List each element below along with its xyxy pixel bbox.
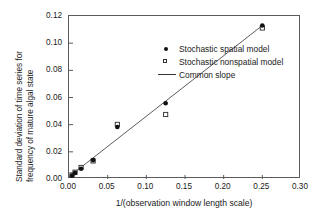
x-tick-label: 0.00 bbox=[48, 182, 88, 191]
y-tick-label: 0.04 bbox=[30, 119, 62, 128]
legend-label-nonspatial: Stochastic nonspatial model bbox=[179, 57, 283, 67]
plot-canvas bbox=[69, 16, 301, 179]
legend-item-spatial: Stochastic spatial model bbox=[157, 42, 319, 55]
chart-legend: Stochastic spatial model Stochastic nons… bbox=[157, 42, 319, 81]
open-square-marker-icon bbox=[157, 55, 179, 68]
legend-item-nonspatial: Stochastic nonspatial model bbox=[157, 55, 319, 68]
x-tick-label: 0.15 bbox=[164, 182, 204, 191]
legend-item-common-slope: Common slope bbox=[157, 68, 319, 81]
y-tick-label: 0.06 bbox=[30, 92, 62, 101]
x-axis-title: 1/(observation window length scale) bbox=[68, 198, 300, 208]
legend-label-spatial: Stochastic spatial model bbox=[179, 44, 269, 54]
filled-circle-marker-icon bbox=[157, 42, 179, 55]
y-tick-label: 0.02 bbox=[30, 146, 62, 155]
y-tick-label: 0.12 bbox=[30, 11, 62, 20]
x-tick-label: 0.05 bbox=[87, 182, 127, 191]
y-tick-label: 0.08 bbox=[30, 65, 62, 74]
y-axis-title-line-1: Standard deviation of time series for bbox=[14, 51, 24, 182]
y-tick-label: 0.10 bbox=[30, 38, 62, 47]
x-tick-label: 0.25 bbox=[241, 182, 281, 191]
y-axis-title: Standard deviation of time series for fr… bbox=[0, 0, 34, 190]
x-tick-label: 0.10 bbox=[125, 182, 165, 191]
line-sample-icon bbox=[157, 68, 179, 81]
x-tick-label: 0.30 bbox=[280, 182, 319, 191]
chart-figure: Standard deviation of time series for fr… bbox=[0, 0, 319, 222]
x-tick-label: 0.20 bbox=[203, 182, 243, 191]
plot-area: Stochastic spatial model Stochastic nons… bbox=[68, 15, 300, 178]
legend-label-common-slope: Common slope bbox=[179, 70, 235, 80]
